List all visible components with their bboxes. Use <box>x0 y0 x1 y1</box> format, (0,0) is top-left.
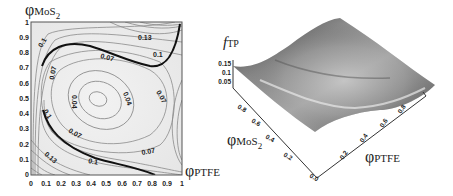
surface-plot-panel: fTP φMoS2 φPTFE <box>215 0 453 196</box>
svg-text:0.9: 0.9 <box>162 180 172 187</box>
svg-text:0.7: 0.7 <box>19 64 29 71</box>
svg-text:0.5: 0.5 <box>19 95 29 102</box>
svg-text:0.5: 0.5 <box>101 180 111 187</box>
svg-text:0.15: 0.15 <box>218 60 231 67</box>
surface-svg: 0.15 0.1 0.05 0.8 0.6 0.4 0.2 0.0 0.2 0.… <box>215 0 453 196</box>
svg-text:0.8: 0.8 <box>147 180 157 187</box>
svg-text:0.2: 0.2 <box>283 151 295 162</box>
svg-text:0.0: 0.0 <box>309 172 321 183</box>
svg-text:0.1: 0.1 <box>19 156 29 163</box>
svg-text:0.4: 0.4 <box>19 110 29 117</box>
svg-text:0.4: 0.4 <box>86 180 96 187</box>
svg-text:1: 1 <box>180 180 184 187</box>
z-ticks: 0.15 0.1 0.05 <box>218 60 231 85</box>
svg-text:0.6: 0.6 <box>378 117 389 129</box>
svg-text:0.04: 0.04 <box>71 95 78 109</box>
svg-text:0.6: 0.6 <box>19 80 29 87</box>
svg-text:0.3: 0.3 <box>19 125 29 132</box>
svg-text:0.2: 0.2 <box>56 180 66 187</box>
svg-text:0.1: 0.1 <box>153 51 163 58</box>
y-ticks: 0 0.1 0.2 0.3 0.4 0.5 0.6 0.7 0.8 0.9 1 <box>19 19 29 178</box>
svg-text:0: 0 <box>29 180 33 187</box>
svg-text:0.4: 0.4 <box>265 133 277 144</box>
svg-text:0.8: 0.8 <box>237 103 249 114</box>
x-ticks: 0 0.1 0.2 0.3 0.4 0.5 0.6 0.7 0.8 0.9 1 <box>29 180 184 187</box>
svg-text:0.2: 0.2 <box>338 149 349 161</box>
svg-text:1: 1 <box>25 19 29 26</box>
svg-text:0.3: 0.3 <box>71 180 81 187</box>
contour-plot-panel: φMoS2 φPTFE <box>0 0 215 196</box>
svg-text:0.13: 0.13 <box>138 34 152 41</box>
svg-text:0.1: 0.1 <box>41 180 51 187</box>
svg-text:0.1: 0.1 <box>222 69 231 76</box>
svg-text:0.6: 0.6 <box>117 180 127 187</box>
svg-text:0.2: 0.2 <box>19 141 29 148</box>
svg-text:0.4: 0.4 <box>358 132 369 144</box>
contour-svg: 0.13 0.1 0.1 0.07 0.07 0.04 0.04 0.07 0.… <box>0 0 215 196</box>
svg-text:0.8: 0.8 <box>19 49 29 56</box>
svg-text:0.7: 0.7 <box>132 180 142 187</box>
svg-text:0: 0 <box>25 171 29 178</box>
svg-text:0.9: 0.9 <box>19 34 29 41</box>
svg-text:0.05: 0.05 <box>218 78 231 85</box>
svg-text:0.6: 0.6 <box>251 117 263 128</box>
